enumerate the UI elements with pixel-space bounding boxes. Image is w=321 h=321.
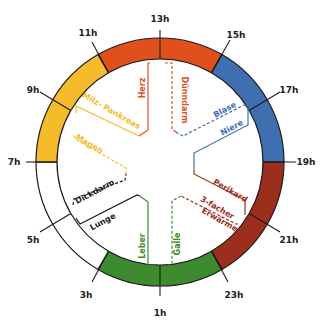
label-niere: Niere (219, 118, 245, 138)
label-dickdarm: Dickdarm (74, 178, 116, 206)
hour-label-9: 9h (27, 85, 40, 95)
hour-label-3: 3h (80, 290, 93, 300)
hour-label-23: 23h (225, 290, 244, 300)
label-herz: Herz (138, 77, 147, 98)
hour-ticks (26, 30, 296, 296)
hour-label-11: 11h (79, 28, 98, 38)
hour-label-13: 13h (151, 14, 170, 24)
connector-duenndarm (165, 63, 176, 132)
label-leber: Leber (138, 233, 147, 259)
hour-label-1: 1h (154, 308, 167, 318)
hour-label-17: 17h (280, 85, 299, 95)
label-lunge: Lunge (89, 211, 118, 232)
label-duenndarm: Dünndarm (180, 76, 189, 123)
hour-label-7: 7h (8, 157, 21, 167)
hour-label-5: 5h (27, 235, 40, 245)
organ-clock-diagram: 13h 15h 17h 19h 21h 23h 1h 3h 5h 7h 9h 1… (0, 0, 321, 321)
label-perikard: Perikard (211, 177, 249, 204)
label-milz-pankreas: Milz- Pankreas (81, 90, 143, 131)
hour-label-15: 15h (227, 30, 246, 40)
label-blase: Blase (212, 100, 238, 120)
label-magen: Magen (74, 132, 105, 155)
hour-label-19: 19h (297, 157, 316, 167)
hour-label-21: 21h (280, 235, 299, 245)
label-galle: Galle (173, 232, 182, 255)
